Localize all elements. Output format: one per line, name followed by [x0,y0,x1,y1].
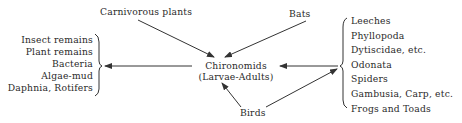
food-source-item: Daphnia, Rotifers [8,82,93,94]
predator-item: Odonata [351,58,453,73]
arrow-birds-to-chironomids [222,83,241,107]
larvae-adults-label: (Larvae-Adults) [195,71,277,82]
predator-item: Phyllopoda [351,29,453,44]
predators-list: Leeches Phyllopoda Dytiscidae, etc. Odon… [351,14,453,116]
left-brace [95,34,102,96]
food-source-item: Plant remains [8,46,93,58]
predator-item: Frogs and Toads [351,102,453,117]
food-source-item: Insect remains [8,34,93,46]
predator-item: Spiders [351,72,453,87]
predator-item: Gambusia, Carp, etc. [351,87,453,102]
predator-item: Dytiscidae, etc. [351,43,453,58]
chironomids-node: Chironomids (Larvae-Adults) [195,60,277,82]
right-brace [340,18,347,108]
birds-label: Birds [240,107,266,118]
arrow-carnivorous-plants-to-chironomids [138,20,214,57]
food-sources-list: Insect remains Plant remains Bacteria Al… [8,34,93,94]
bats-label: Bats [289,8,310,19]
predator-item: Leeches [351,14,453,29]
food-source-item: Algae-mud [8,70,93,82]
arrow-bats-to-chironomids [225,21,306,57]
carnivorous-plants-label: Carnivorous plants [100,6,192,17]
food-source-item: Bacteria [8,58,93,70]
chironomids-label: Chironomids [195,60,277,71]
